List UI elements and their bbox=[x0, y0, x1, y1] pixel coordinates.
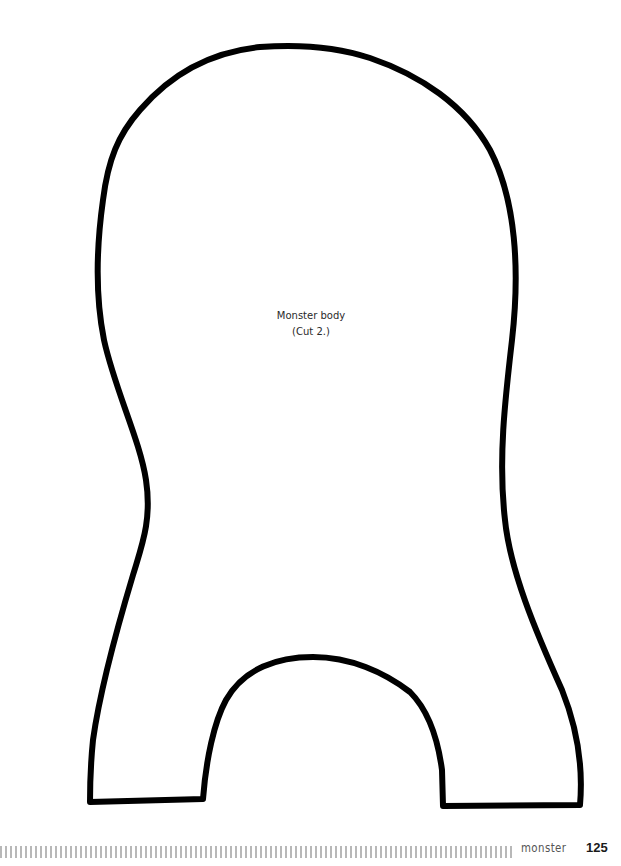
footer-decorative-bars bbox=[0, 846, 512, 858]
footer-section-title: monster bbox=[521, 841, 566, 855]
pattern-page: Monster body (Cut 2.) monster 125 bbox=[0, 0, 621, 866]
monster-body-outline bbox=[0, 0, 621, 866]
pattern-label-title: Monster body bbox=[236, 308, 386, 324]
pattern-label: Monster body (Cut 2.) bbox=[236, 308, 386, 340]
page-number: 125 bbox=[586, 840, 608, 855]
pattern-label-cut-instruction: (Cut 2.) bbox=[236, 324, 386, 340]
